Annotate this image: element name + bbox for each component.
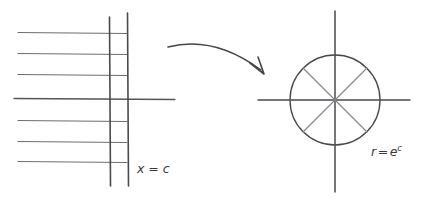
left-panel-group: x = c	[14, 13, 175, 186]
left-horizontal-axis-line	[14, 99, 175, 100]
mapping-arrow-curve	[168, 44, 261, 70]
r-label-equals: =	[378, 144, 388, 159]
r-equals-e-to-the-c-label: r=ec	[371, 143, 402, 159]
right-panel-group: r=ec	[258, 11, 410, 192]
sketch-svg: x = c r=ec	[0, 0, 427, 205]
r-label-exponent: c	[397, 143, 402, 153]
left-horizontal-line	[18, 75, 127, 76]
left-vertical-line-inner	[110, 17, 111, 186]
left-horizontal-line	[18, 54, 127, 55]
mapping-arrow-group	[168, 44, 264, 74]
left-horizontal-line	[18, 33, 127, 34]
x-equals-c-label: x = c	[136, 161, 170, 176]
r-label-variable: r	[371, 144, 377, 159]
left-horizontal-line-group	[14, 33, 175, 163]
figure-canvas: x = c r=ec	[0, 0, 427, 205]
mapping-arrow-head-icon	[250, 57, 264, 74]
x-equals-c-label-text: x = c	[136, 161, 170, 176]
left-vertical-line-xequalsc	[128, 13, 129, 186]
